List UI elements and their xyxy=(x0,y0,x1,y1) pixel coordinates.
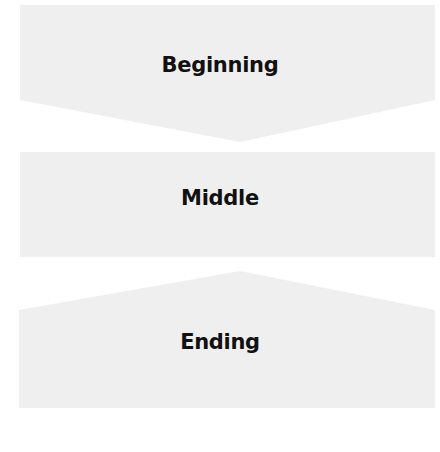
middle-label: Middle xyxy=(0,186,440,210)
story-structure-diagram: Beginning Middle Ending xyxy=(0,0,440,452)
ending-label: Ending xyxy=(0,330,440,354)
beginning-label: Beginning xyxy=(0,53,440,77)
